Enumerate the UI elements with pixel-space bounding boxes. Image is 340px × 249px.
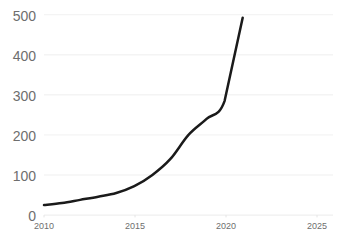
ytick-label-400: 400 <box>2 49 36 63</box>
xtick-label-2020: 2020 <box>206 221 246 231</box>
chart-plot-area <box>0 0 340 249</box>
ytick-label-300: 300 <box>2 89 36 103</box>
gridlines <box>44 15 333 216</box>
xtick-label-2010: 2010 <box>24 221 64 231</box>
ytick-label-500: 500 <box>2 9 36 23</box>
xtick-label-2025: 2025 <box>297 221 337 231</box>
ytick-label-200: 200 <box>2 129 36 143</box>
line-chart: 500 400 300 200 100 0 2010 2015 2020 202… <box>0 0 340 249</box>
data-line-series-1 <box>44 18 243 205</box>
xtick-label-2015: 2015 <box>115 221 155 231</box>
ytick-label-100: 100 <box>2 169 36 183</box>
